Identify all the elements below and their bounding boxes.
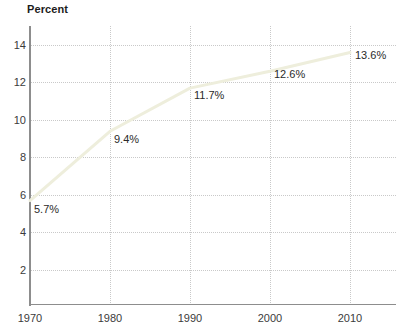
data-label-1990: 11.7% (194, 89, 224, 101)
data-label-1980: 9.4% (114, 133, 139, 145)
data-series-line (0, 0, 396, 334)
data-label-2010: 13.6% (355, 49, 386, 61)
line-chart: Percent 14 12 10 8 6 4 2 1970 1980 1990 … (0, 0, 396, 334)
data-label-1970: 5.7% (34, 203, 59, 215)
data-label-2000: 12.6% (274, 68, 305, 80)
